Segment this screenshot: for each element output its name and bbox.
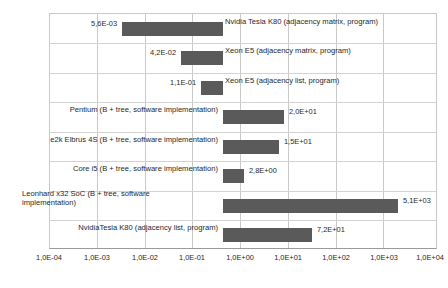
value-label: 2,0E+01	[289, 107, 349, 116]
gridline-horizontal	[50, 132, 436, 133]
x-axis-tick-label: 1,0E+00	[226, 253, 254, 262]
log-bar-chart: Nvidia Tesla K80 (adjacency matrix, prog…	[0, 0, 448, 288]
x-axis-tick-label: 1,0E+02	[322, 253, 350, 262]
value-label: 2,8E+00	[249, 166, 309, 175]
gridline-vertical	[97, 14, 98, 248]
category-label: Core i5 (B + tree, software implementati…	[30, 164, 218, 173]
bar-series-item	[223, 110, 284, 124]
value-label: 5,1E+03	[403, 196, 448, 205]
x-axis-tick-label: 1,0E+01	[274, 253, 302, 262]
x-axis-tick-label: 1,0E+03	[370, 253, 398, 262]
gridline-horizontal	[50, 102, 436, 103]
gridline-horizontal	[50, 43, 436, 44]
category-label: e2k Elbrus 4S (B + tree, software implem…	[12, 135, 218, 144]
bar-series-item	[122, 22, 223, 36]
category-label: Nvidia Tesla K80 (adjacency matrix, prog…	[225, 17, 440, 26]
category-label: Leonhard x32 SoC (B + tree, software imp…	[22, 189, 218, 207]
category-label: Xeon E5 (adjacency list, program)	[225, 76, 440, 85]
gridline-horizontal	[50, 220, 436, 221]
category-label: NvidiaTesla K80 (adjacency list, program…	[30, 223, 218, 232]
x-axis-tick-label: 1,0E-04	[36, 253, 62, 262]
value-label: 7,2E+01	[317, 225, 377, 234]
x-axis-tick-label: 1,0E+04	[416, 253, 444, 262]
value-label: 4,2E-02	[120, 48, 176, 57]
x-axis-tick-label: 1,0E-03	[84, 253, 110, 262]
bar-series-item	[181, 51, 223, 65]
gridline-horizontal	[50, 73, 436, 74]
x-axis-tick-label: 1,0E-02	[132, 253, 158, 262]
bar-series-item	[223, 169, 244, 183]
gridline-vertical	[192, 14, 193, 248]
category-label: Pentium (B + tree, software implementati…	[30, 105, 218, 114]
bar-series-item	[201, 81, 223, 95]
category-label: Xeon E5 (adjacency matrix, program)	[225, 46, 440, 55]
bar-series-item	[223, 228, 312, 242]
x-axis-tick-label: 1,0E-01	[179, 253, 205, 262]
value-label: 1,1E-01	[140, 78, 196, 87]
bar-series-item	[223, 199, 398, 213]
gridline-horizontal	[50, 161, 436, 162]
bar-series-item	[223, 140, 279, 154]
value-label: 5,6E-03	[61, 19, 117, 28]
value-label: 1,5E+01	[284, 137, 344, 146]
